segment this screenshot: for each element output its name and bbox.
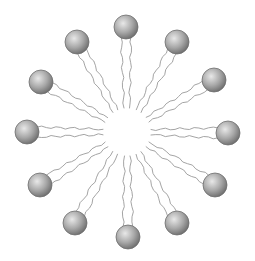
head-sphere-top-left (65, 30, 89, 54)
tail-b (141, 152, 177, 212)
molecule-top-right (136, 48, 176, 112)
molecule-left-lower (46, 142, 108, 184)
tail-a (129, 37, 132, 108)
tail-b (121, 37, 125, 108)
molecule-bottom (122, 156, 133, 227)
tail-b (130, 156, 134, 227)
tail-a (46, 142, 105, 175)
tail-a (141, 53, 176, 112)
tail-b (149, 142, 209, 176)
tail-a (37, 126, 103, 130)
head-sphere-left-upper (29, 70, 53, 94)
head-sphere-right-upper (202, 68, 226, 92)
head-sphere-bottom-left (63, 211, 87, 235)
tail-a (76, 152, 113, 212)
micelle-illustration (0, 0, 255, 261)
head-sphere-top-right (165, 30, 189, 54)
molecule-right (151, 127, 218, 139)
molecule-top (121, 37, 132, 108)
tail-b (146, 81, 203, 118)
heads-layer (15, 15, 240, 249)
tail-b (136, 48, 168, 109)
head-sphere-right (216, 121, 240, 145)
head-sphere-bottom-right (165, 211, 189, 235)
tail-b (51, 147, 108, 184)
head-sphere-top (114, 15, 138, 39)
molecule-bottom-left (76, 152, 118, 217)
molecule-right-upper (146, 81, 208, 122)
tail-b (84, 154, 117, 217)
tail-b (151, 127, 218, 130)
tail-a (136, 154, 168, 216)
tail-a (122, 156, 125, 227)
head-sphere-left-lower (28, 173, 52, 197)
head-sphere-bottom (116, 225, 140, 249)
tail-b (37, 134, 103, 138)
molecule-left-upper (47, 83, 108, 123)
micelle-diagram (0, 0, 255, 261)
tail-a (149, 89, 208, 122)
molecule-left (37, 126, 103, 137)
tail-a (146, 147, 204, 184)
tails-layer (37, 37, 218, 227)
tail-a (151, 135, 218, 139)
tail-a (86, 48, 118, 109)
head-sphere-right-lower (203, 173, 227, 197)
head-sphere-left (15, 120, 39, 144)
tail-b (78, 53, 113, 112)
tail-b (47, 91, 105, 122)
